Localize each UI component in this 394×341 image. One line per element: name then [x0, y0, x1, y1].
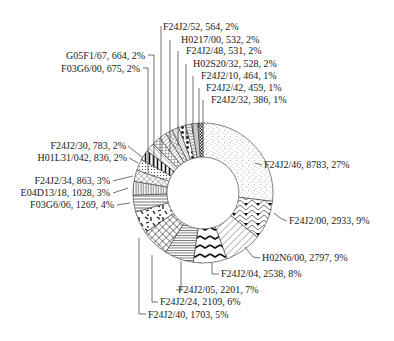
slice-label: E04D13/18, 1028, 3%	[21, 187, 110, 198]
slice-label: F03G6/00, 675, 2%	[61, 63, 140, 74]
slice-label: H01L31/042, 836, 2%	[38, 152, 127, 163]
leader-line	[129, 158, 138, 163]
leader-line	[113, 176, 133, 181]
slice-label: F24J2/32, 386, 1%	[211, 94, 287, 105]
leader-line	[152, 255, 158, 302]
slice-label: F24J2/42, 459, 1%	[206, 82, 282, 93]
slice-labels: F24J2/52, 564, 2%H0217/00, 532, 2%F24J2/…	[21, 21, 370, 320]
leader-line	[274, 213, 287, 221]
slice-f24j2-46	[203, 123, 273, 201]
leader-line	[139, 238, 146, 314]
leader-line	[117, 203, 130, 205]
slice-label: H02N6/00, 2797, 9%	[262, 252, 348, 263]
leader-line	[113, 188, 128, 193]
slice-label: F24J2/00, 2933, 9%	[289, 215, 370, 226]
leader-line	[128, 146, 143, 158]
slice-label: F03G6/06, 1269, 4%	[30, 199, 114, 210]
slice-label: F24J2/52, 564, 2%	[163, 21, 239, 32]
slice-label: H0217/00, 532, 2%	[181, 34, 259, 45]
slice-label: F24J2/30, 783, 2%	[50, 140, 126, 151]
slice-label: F24J2/05, 2201, 7%	[178, 284, 259, 295]
slice-label: F24J2/34, 863, 3%	[34, 175, 110, 186]
slice-label: F24J2/04, 2538, 8%	[221, 268, 302, 279]
leader-line	[212, 263, 219, 274]
slice-label: F24J2/48, 531, 2%	[186, 45, 262, 56]
donut-chart: F24J2/52, 564, 2%H0217/00, 532, 2%F24J2/…	[0, 0, 394, 341]
leader-line	[245, 247, 260, 258]
slice-label: F24J2/24, 2109, 6%	[160, 296, 241, 307]
slice-label: G05F1/67, 664, 2%	[66, 50, 145, 61]
slice-label: H02S20/32, 528, 2%	[193, 58, 277, 69]
slice-label: F24J2/10, 464, 1%	[201, 70, 277, 81]
slice-label: F24J2/40, 1703, 5%	[148, 309, 229, 320]
slice-label: F24J2/46, 8783, 27%	[264, 159, 350, 170]
